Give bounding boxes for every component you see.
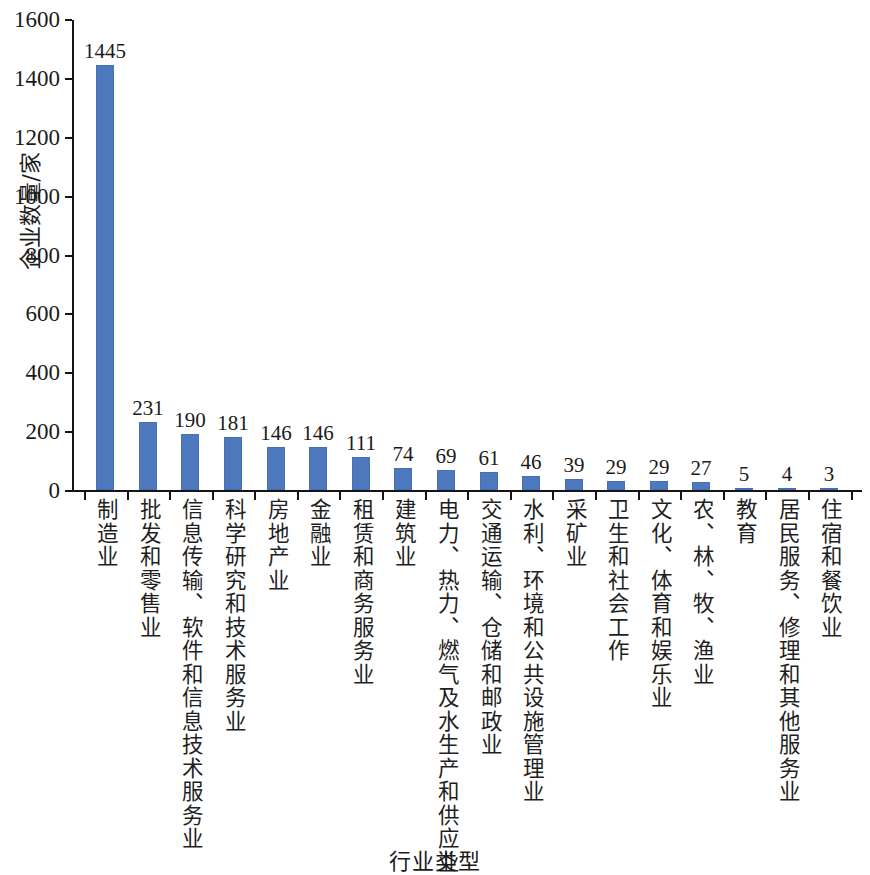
x-axis-category-label: 文化、体育和娱乐业 bbox=[648, 498, 671, 710]
bar bbox=[181, 434, 199, 490]
bar bbox=[267, 447, 285, 490]
x-axis-category-label: 电力、热力、燃气及水生产和供应业 bbox=[435, 498, 458, 874]
x-axis-category-label: 金融业 bbox=[307, 498, 330, 569]
x-axis-tick bbox=[382, 492, 384, 500]
y-axis-tick bbox=[65, 490, 72, 492]
y-axis-tick bbox=[65, 313, 72, 315]
y-axis-tick-label: 0 bbox=[0, 479, 60, 502]
bar bbox=[352, 457, 370, 490]
x-axis-category-label: 科学研究和技术服务业 bbox=[222, 498, 245, 733]
x-axis-tick bbox=[425, 492, 427, 500]
x-axis-title: 行业类型 bbox=[0, 843, 870, 875]
bar bbox=[437, 470, 455, 490]
x-axis-category-label: 房地产业 bbox=[265, 498, 288, 592]
y-axis-tick bbox=[65, 137, 72, 139]
x-axis-category-label: 卫生和社会工作 bbox=[605, 498, 628, 663]
y-axis-tick bbox=[65, 431, 72, 433]
bar bbox=[565, 479, 583, 490]
bar bbox=[778, 488, 796, 490]
x-axis-tick bbox=[808, 492, 810, 500]
x-axis-category-label: 水利、环境和公共设施管理业 bbox=[520, 498, 543, 804]
x-axis-tick bbox=[723, 492, 725, 500]
x-axis-tick bbox=[169, 492, 171, 500]
x-axis-tick bbox=[510, 492, 512, 500]
x-axis-tick bbox=[127, 492, 129, 500]
bar-value-label: 1445 bbox=[71, 41, 139, 62]
x-axis-category-label: 信息传输、软件和信息技术服务业 bbox=[179, 498, 202, 851]
y-axis-tick bbox=[65, 255, 72, 257]
x-axis-tick bbox=[851, 492, 853, 500]
x-axis-tick bbox=[765, 492, 767, 500]
bar bbox=[139, 422, 157, 490]
x-axis-category-label: 农、林、牧、渔业 bbox=[690, 498, 713, 686]
x-axis-category-label: 教育 bbox=[733, 498, 756, 545]
bar bbox=[224, 437, 242, 490]
y-axis-tick-label: 1600 bbox=[0, 8, 60, 31]
bar bbox=[650, 481, 668, 490]
y-axis-tick-label: 800 bbox=[0, 244, 60, 267]
y-axis-tick-label: 600 bbox=[0, 302, 60, 325]
x-axis-category-label: 制造业 bbox=[94, 498, 117, 569]
y-axis-tick bbox=[65, 196, 72, 198]
bar bbox=[692, 482, 710, 490]
bar-value-label: 3 bbox=[795, 464, 863, 485]
y-axis-line bbox=[72, 20, 74, 491]
x-axis-tick bbox=[467, 492, 469, 500]
y-axis-tick-label: 1400 bbox=[0, 67, 60, 90]
bar bbox=[820, 488, 838, 490]
y-axis-tick-label: 1000 bbox=[0, 185, 60, 208]
x-axis-tick bbox=[297, 492, 299, 500]
bar bbox=[96, 65, 114, 490]
x-axis-tick bbox=[680, 492, 682, 500]
x-axis-tick bbox=[212, 492, 214, 500]
x-axis-tick bbox=[595, 492, 597, 500]
x-axis-tick bbox=[84, 492, 86, 500]
x-axis-tick bbox=[638, 492, 640, 500]
x-axis-tick bbox=[339, 492, 341, 500]
x-axis-tick bbox=[552, 492, 554, 500]
plot-area: 02004006008001000120014001600 1445231190… bbox=[72, 20, 862, 491]
y-axis-tick-label: 400 bbox=[0, 361, 60, 384]
x-axis-category-label: 居民服务、修理和其他服务业 bbox=[776, 498, 799, 804]
bar bbox=[480, 472, 498, 490]
x-axis-category-label: 采矿业 bbox=[563, 498, 586, 569]
bar bbox=[735, 488, 753, 490]
bar bbox=[607, 481, 625, 490]
y-axis-tick bbox=[65, 372, 72, 374]
x-axis-category-label: 批发和零售业 bbox=[137, 498, 160, 639]
bar bbox=[394, 468, 412, 490]
y-axis-tick bbox=[65, 78, 72, 80]
bar bbox=[309, 447, 327, 490]
y-axis-tick-label: 200 bbox=[0, 420, 60, 443]
x-axis-category-label: 交通运输、仓储和邮政业 bbox=[478, 498, 501, 757]
y-axis-tick bbox=[65, 19, 72, 21]
x-axis-category-label: 租赁和商务服务业 bbox=[350, 498, 373, 686]
x-axis-category-label: 建筑业 bbox=[392, 498, 415, 569]
y-axis-tick-label: 1200 bbox=[0, 126, 60, 149]
bar bbox=[522, 476, 540, 490]
x-axis-category-label: 住宿和餐饮业 bbox=[818, 498, 841, 639]
x-axis-tick bbox=[254, 492, 256, 500]
